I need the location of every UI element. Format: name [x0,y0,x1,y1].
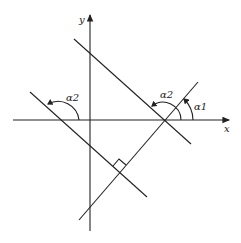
alpha1-label: α1 [194,101,207,112]
line-ascending [79,82,198,220]
line-lower-descending [30,92,147,197]
y-axis-label: y [78,14,85,25]
alpha1-arc [184,99,193,120]
right-angle-marker [113,159,126,166]
alpha2-left-label: α2 [66,92,79,103]
alpha2-left-arc [48,101,79,120]
coordinate-diagram: x y α1 α2 α2 [0,0,241,243]
x-axis-label: x [224,123,230,134]
alpha2-right-label: α2 [160,89,173,100]
line-upper-descending [74,39,191,144]
alpha2-right-arc [152,102,181,120]
